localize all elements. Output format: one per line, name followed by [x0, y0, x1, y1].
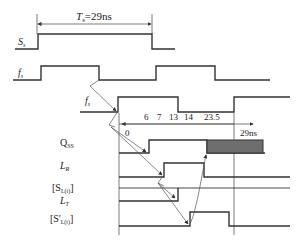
signal-LR: LR: [59, 160, 290, 177]
svg-text:6: 6: [144, 112, 149, 122]
svg-text:0: 0: [125, 128, 130, 138]
timing-diagram: Ts=29ns Ss fs fs 6 7 13 14 23.5 0 29ns Q…: [0, 0, 300, 248]
svg-text:Ss: Ss: [18, 36, 26, 48]
svg-text:fs: fs: [85, 95, 91, 107]
shaded-region: [207, 140, 263, 153]
signal-fs-1: fs: [13, 66, 270, 80]
svg-text:7: 7: [157, 112, 162, 122]
period-dimension: Ts=29ns: [37, 10, 152, 34]
signal-LT: LT: [59, 188, 178, 207]
svg-text:[SL(t)]: [SL(t)]: [52, 182, 74, 195]
svg-text:23.5: 23.5: [204, 112, 220, 122]
signal-SLt: [SL(t)]: [52, 182, 290, 195]
svg-text:QSS: QSS: [60, 137, 74, 149]
signal-SpLt: [S'L(t)]: [50, 212, 290, 226]
causal-arrows: [90, 80, 206, 224]
svg-text:[S'L(t)]: [S'L(t)]: [50, 213, 73, 226]
svg-text:LT: LT: [59, 195, 70, 207]
period-label: Ts=29ns: [76, 10, 112, 24]
svg-text:14: 14: [184, 112, 194, 122]
svg-text:29ns: 29ns: [240, 128, 258, 138]
svg-text:13: 13: [169, 112, 179, 122]
signal-Ss: Ss: [15, 34, 175, 49]
svg-text:fs: fs: [18, 67, 24, 79]
svg-text:LR: LR: [59, 160, 70, 172]
signal-fs-2: fs: [80, 95, 290, 112]
time-axis: 6 7 13 14 23.5 0 29ns: [119, 112, 258, 235]
